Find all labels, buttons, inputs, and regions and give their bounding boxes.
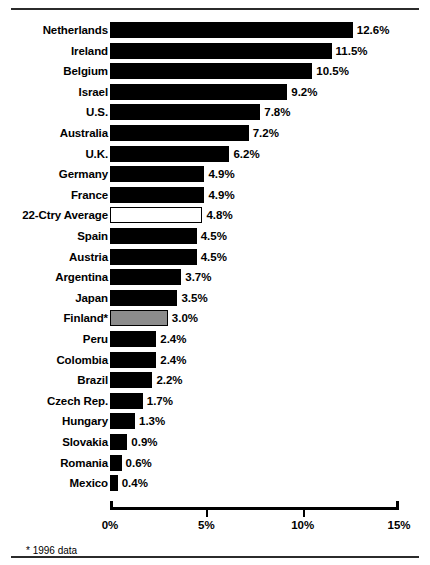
category-label: U.S. — [86, 101, 108, 123]
category-label: Peru — [83, 328, 108, 350]
category-label: U.K. — [85, 143, 108, 165]
bar-value-label: 1.3% — [135, 413, 165, 429]
bar-value-label: 9.2% — [287, 84, 317, 100]
bar-value-label: 3.7% — [181, 269, 211, 285]
category-label: Spain — [77, 225, 108, 247]
bar — [110, 146, 229, 162]
chart-row: Romania0.6% — [0, 452, 430, 474]
chart-row: Japan3.5% — [0, 287, 430, 309]
bar — [110, 413, 135, 429]
bar-value-label: 12.6% — [353, 22, 390, 38]
chart-row: Belgium10.5% — [0, 60, 430, 82]
category-label: Argentina — [55, 266, 108, 288]
bar — [110, 166, 204, 182]
category-label: Romania — [60, 452, 108, 474]
chart-row: Hungary1.3% — [0, 410, 430, 432]
category-label: Germany — [59, 163, 108, 185]
bar-value-label: 4.9% — [204, 166, 234, 182]
chart-row: Israel9.2% — [0, 81, 430, 103]
bar-value-label: 4.8% — [202, 207, 232, 223]
chart-footnote: * 1996 data — [26, 545, 77, 556]
bar-value-label: 7.8% — [260, 104, 290, 120]
chart-row: Colombia2.4% — [0, 349, 430, 371]
category-label: Hungary — [62, 410, 108, 432]
bar — [110, 393, 143, 409]
bar — [110, 187, 204, 203]
x-axis-tick — [303, 510, 305, 517]
bar-value-label: 2.2% — [152, 372, 182, 388]
bar — [110, 455, 122, 471]
x-axis-tick — [206, 510, 208, 517]
category-label: Netherlands — [43, 19, 108, 41]
bar-value-label: 7.2% — [249, 125, 279, 141]
category-label: Austria — [69, 246, 108, 268]
bar-value-label: 10.5% — [312, 63, 349, 79]
chart-plot-area: Netherlands12.6%Ireland11.5%Belgium10.5%… — [0, 17, 430, 507]
bar-value-label: 6.2% — [229, 146, 259, 162]
category-label: Mexico — [70, 472, 108, 494]
chart-row: U.S.7.8% — [0, 101, 430, 123]
chart-row: France4.9% — [0, 184, 430, 206]
bar-value-label: 0.4% — [118, 475, 148, 491]
category-label: Finland* — [63, 307, 108, 329]
bar-value-label: 2.4% — [156, 331, 186, 347]
category-label: Japan — [75, 287, 108, 309]
category-label: Belgium — [63, 60, 108, 82]
bar-value-label: 0.6% — [122, 455, 152, 471]
x-axis-right-cap — [396, 501, 399, 510]
bar — [110, 22, 353, 38]
chart-row: Brazil2.2% — [0, 369, 430, 391]
chart-row: Finland*3.0% — [0, 307, 430, 329]
category-label: Ireland — [71, 40, 108, 62]
bar — [110, 104, 260, 120]
x-axis-left-cap — [110, 501, 113, 510]
chart-row: Argentina3.7% — [0, 266, 430, 288]
chart-row: Czech Rep.1.7% — [0, 390, 430, 412]
bar-value-label: 3.5% — [177, 290, 207, 306]
bar-value-label: 11.5% — [332, 43, 368, 59]
chart-row: Spain4.5% — [0, 225, 430, 247]
category-label: 22-Ctry Average — [22, 204, 108, 226]
category-label: Australia — [60, 122, 108, 144]
bar-value-label: 4.5% — [197, 249, 227, 265]
top-divider-rule — [11, 8, 419, 10]
category-label: Slovakia — [62, 431, 108, 453]
chart-row: Peru2.4% — [0, 328, 430, 350]
bar-value-label: 2.4% — [156, 352, 186, 368]
bar-value-label: 1.7% — [143, 393, 173, 409]
category-label: Colombia — [56, 349, 108, 371]
bar — [110, 352, 156, 368]
chart-row: 22-Ctry Average4.8% — [0, 204, 430, 226]
bar-value-label: 4.9% — [204, 187, 234, 203]
bar — [110, 331, 156, 347]
category-label: Czech Rep. — [47, 390, 108, 412]
bar — [110, 43, 332, 59]
category-label: Israel — [79, 81, 108, 103]
category-label: France — [71, 184, 108, 206]
chart-row: Mexico0.4% — [0, 472, 430, 494]
chart-row: Germany4.9% — [0, 163, 430, 185]
chart-row: Austria4.5% — [0, 246, 430, 268]
bar — [110, 434, 127, 450]
chart-row: Netherlands12.6% — [0, 19, 430, 41]
x-axis-tick-label: 0% — [80, 519, 140, 531]
bar — [110, 63, 312, 79]
bar — [110, 475, 118, 491]
chart-row: Australia7.2% — [0, 122, 430, 144]
chart-row: Ireland11.5% — [0, 40, 430, 62]
bottom-divider-rule — [11, 556, 419, 558]
bar — [110, 84, 287, 100]
bar — [110, 228, 197, 244]
bar — [110, 372, 152, 388]
x-axis-tick-label: 5% — [176, 519, 236, 531]
bar-value-label: 3.0% — [168, 310, 198, 326]
chart-row: Slovakia0.9% — [0, 431, 430, 453]
bar — [110, 249, 197, 265]
x-axis-tick-label: 15% — [369, 519, 429, 531]
x-axis-tick-label: 10% — [273, 519, 333, 531]
bar-chart: Netherlands12.6%Ireland11.5%Belgium10.5%… — [0, 17, 430, 547]
bar-value-label: 4.5% — [197, 228, 227, 244]
bar — [110, 207, 202, 223]
bar — [110, 269, 181, 285]
chart-row: U.K.6.2% — [0, 143, 430, 165]
